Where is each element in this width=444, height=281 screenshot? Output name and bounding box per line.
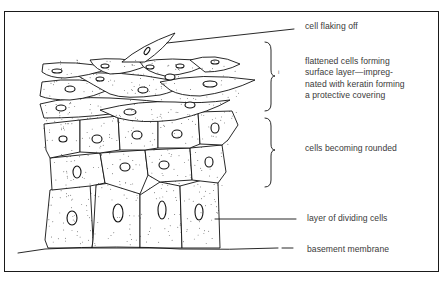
brace-rounded-layer — [265, 118, 275, 187]
intermediate-cell-layer — [44, 111, 238, 194]
leader-cell-flaking — [167, 29, 294, 43]
brace-surface-layer — [265, 42, 275, 111]
label-dividing-cells: layer of dividing cells — [307, 213, 387, 224]
label-basement-membrane: basement membrane — [307, 244, 389, 255]
label-cell-flaking-off: cell flaking off — [305, 21, 358, 32]
basement-membrane-line — [18, 247, 293, 253]
label-cells-rounded: cells becoming rounded — [305, 143, 397, 154]
label-flattened-cells: flattened cells forming surface layer—im… — [305, 56, 405, 102]
surface-cell-layer — [40, 33, 255, 122]
epithelium-diagram: i — [0, 0, 444, 281]
brace-mark: i — [278, 69, 279, 75]
